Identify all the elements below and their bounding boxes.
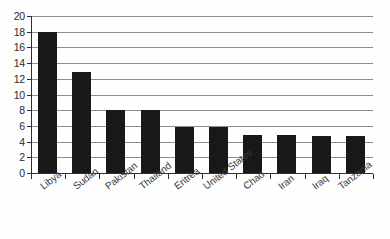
category-label-thailand: Thailand bbox=[137, 160, 173, 192]
category-label-eritrea: Eritrea bbox=[172, 165, 201, 191]
category-label-iraq: Iraq bbox=[310, 173, 330, 192]
category-label-sudan: Sudan bbox=[71, 166, 100, 192]
category-label-chad: Chad bbox=[241, 169, 266, 192]
x-axis-category-labels: Libya Sudan Pakistan Thailand Eritrea Un… bbox=[0, 0, 390, 239]
category-label-libya: Libya bbox=[38, 169, 63, 192]
category-label-iran: Iran bbox=[276, 173, 296, 192]
category-label-tanzania: Tanzania bbox=[336, 159, 374, 192]
category-label-pakistan: Pakistan bbox=[103, 160, 139, 192]
bar-chart: 20 18 16 14 12 10 8 6 4 2 0 Libya Sudan … bbox=[0, 0, 390, 239]
